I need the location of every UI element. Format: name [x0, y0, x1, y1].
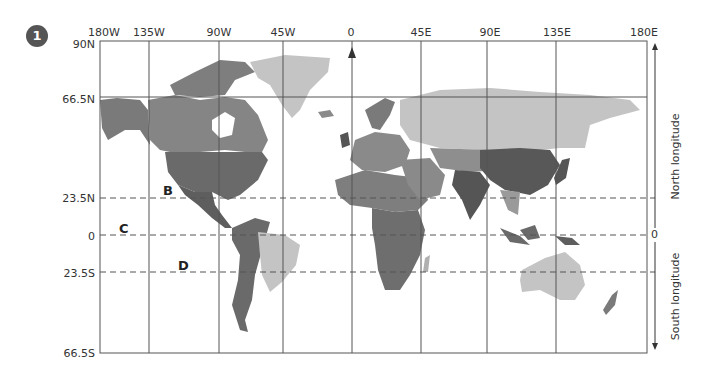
south-longitude-label: South longitude — [669, 253, 682, 340]
papua — [555, 236, 580, 245]
world-map — [0, 0, 701, 371]
brazil — [258, 232, 300, 292]
china — [480, 148, 560, 195]
arrow-up-icon — [652, 43, 658, 50]
alaska — [100, 98, 150, 145]
india — [452, 170, 490, 220]
canadian-arctic — [170, 60, 255, 97]
right-axis-zero-label: 0 — [651, 228, 658, 241]
canada — [148, 95, 268, 152]
point-c-label: C — [119, 221, 129, 236]
point-a-arrow-icon — [348, 47, 356, 58]
southeast-asia — [500, 190, 520, 215]
point-d-label: D — [178, 258, 189, 273]
australia — [520, 252, 585, 300]
point-b-label: B — [163, 183, 173, 198]
iceland — [318, 110, 334, 118]
usa — [165, 152, 268, 200]
madagascar — [423, 255, 430, 272]
uk — [340, 132, 350, 148]
russia — [400, 88, 640, 152]
point-a-label: A — [347, 44, 348, 45]
new-zealand — [603, 290, 618, 315]
arrow-down-icon — [652, 343, 658, 350]
europe — [350, 132, 410, 172]
central-southern-africa — [372, 208, 425, 290]
greenland — [250, 55, 330, 118]
north-longitude-label: North longitude — [669, 113, 682, 199]
scandinavia — [365, 98, 395, 130]
